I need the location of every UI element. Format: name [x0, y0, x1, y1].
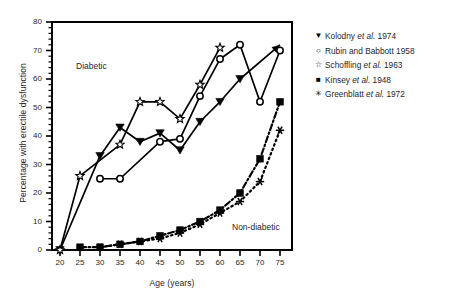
legend-item-3[interactable]: ■Kinsey et al. 1948 [312, 74, 448, 86]
chart-figure: Percentage with erectile dysfunction Age… [0, 0, 449, 302]
y-tick-10: 10 [20, 217, 42, 226]
legend-label: Schoffling et al. 1963 [325, 59, 402, 71]
legend-item-1[interactable]: ○Rubin and Babbott 1958 [312, 45, 448, 57]
x-tick-20: 20 [50, 258, 70, 267]
x-tick-50: 50 [170, 258, 190, 267]
y-tick-40: 40 [20, 131, 42, 140]
plot-frame [52, 22, 292, 250]
legend-label: Kinsey et al. 1948 [325, 74, 391, 86]
x-axis-title: Age (years) [52, 278, 292, 288]
x-tick-45: 45 [150, 258, 170, 267]
legend-marker-icon: ✳ [312, 88, 325, 100]
x-tick-30: 30 [90, 258, 110, 267]
legend-label: Greenblatt et al. 1972 [325, 88, 405, 100]
legend-marker-icon: ▼ [312, 30, 325, 42]
y-axis-ticks [46, 22, 52, 250]
y-tick-60: 60 [20, 74, 42, 83]
chart-legend: ▼Kolodny et al. 1974○Rubin and Babbott 1… [312, 30, 448, 103]
y-tick-20: 20 [20, 188, 42, 197]
x-tick-25: 25 [70, 258, 90, 267]
x-tick-70: 70 [250, 258, 270, 267]
y-tick-0: 0 [20, 245, 42, 254]
y-tick-70: 70 [20, 46, 42, 55]
y-tick-50: 50 [20, 103, 42, 112]
x-tick-35: 35 [110, 258, 130, 267]
legend-item-2[interactable]: ☆Schoffling et al. 1963 [312, 59, 448, 71]
legend-marker-icon: ☆ [312, 59, 325, 71]
x-tick-60: 60 [210, 258, 230, 267]
legend-marker-icon: ■ [312, 74, 325, 86]
annotation-diabetic: Diabetic [76, 61, 107, 71]
x-tick-40: 40 [130, 258, 150, 267]
x-tick-65: 65 [230, 258, 250, 267]
legend-label: Rubin and Babbott 1958 [325, 45, 415, 57]
x-tick-55: 55 [190, 258, 210, 267]
y-tick-80: 80 [20, 17, 42, 26]
legend-item-0[interactable]: ▼Kolodny et al. 1974 [312, 30, 448, 42]
legend-item-4[interactable]: ✳Greenblatt et al. 1972 [312, 88, 448, 100]
annotation-non-diabetic: Non-diabetic [232, 222, 280, 232]
legend-marker-icon: ○ [312, 45, 325, 57]
y-tick-30: 30 [20, 160, 42, 169]
x-tick-75: 75 [270, 258, 290, 267]
legend-label: Kolodny et al. 1974 [325, 30, 396, 42]
